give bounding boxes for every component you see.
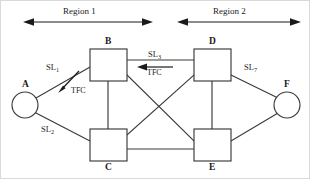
link-b-d-label: SL3	[148, 50, 161, 59]
link-d-f-label-text: SL	[244, 62, 254, 72]
node-e-label: E	[209, 163, 215, 173]
link-c-d	[127, 75, 194, 135]
link-a-b-label-text: SL	[46, 62, 56, 72]
region-2-arrow	[177, 18, 301, 25]
region-2-label: Region 2	[213, 7, 246, 16]
node-c-shape[interactable]	[90, 129, 127, 161]
link-a-b-label-subscript: 1	[56, 66, 59, 73]
node-f-label: F	[284, 80, 290, 90]
network-topology-diagram: Region 1 Region 2 A B C D E F SL1 SL2 SL…	[0, 0, 310, 179]
node-d-label: D	[209, 37, 216, 47]
region-1-arrow-head-right	[142, 18, 153, 25]
region-2-arrow-head-right	[290, 18, 301, 25]
link-a-c-label-subscript: 2	[51, 128, 54, 135]
region-2-arrow-head-left	[177, 18, 188, 25]
node-d-shape[interactable]	[194, 49, 231, 81]
link-e-f	[231, 113, 278, 141]
region-1-arrow-head-left	[23, 18, 34, 25]
node-f-shape[interactable]	[274, 92, 300, 118]
region-1-label: Region 1	[63, 7, 96, 16]
link-b-d-label-text: SL	[148, 49, 158, 59]
link-d-f	[231, 75, 278, 98]
link-d-f-label-subscript: 7	[254, 66, 257, 73]
node-a-label: A	[22, 80, 29, 90]
link-a-b-label: SL1	[46, 63, 59, 72]
tfc-label-bd: TFC	[147, 69, 162, 77]
link-a-c-label-text: SL	[41, 124, 51, 134]
link-b-d-label-subscript: 3	[158, 53, 161, 60]
link-a-c-label: SL2	[41, 125, 54, 134]
link-d-f-label: SL7	[244, 63, 257, 72]
node-b-shape[interactable]	[90, 49, 127, 81]
tfc-arrow-bd-head	[137, 63, 147, 70]
node-e-shape[interactable]	[194, 129, 231, 161]
node-b-label: B	[105, 37, 111, 47]
node-a-shape[interactable]	[12, 92, 38, 118]
link-b-e	[127, 75, 194, 141]
region-1-arrow	[23, 18, 153, 25]
node-c-label: C	[105, 163, 112, 173]
diagram-canvas	[1, 1, 310, 179]
tfc-label-a: TFC	[71, 87, 86, 95]
